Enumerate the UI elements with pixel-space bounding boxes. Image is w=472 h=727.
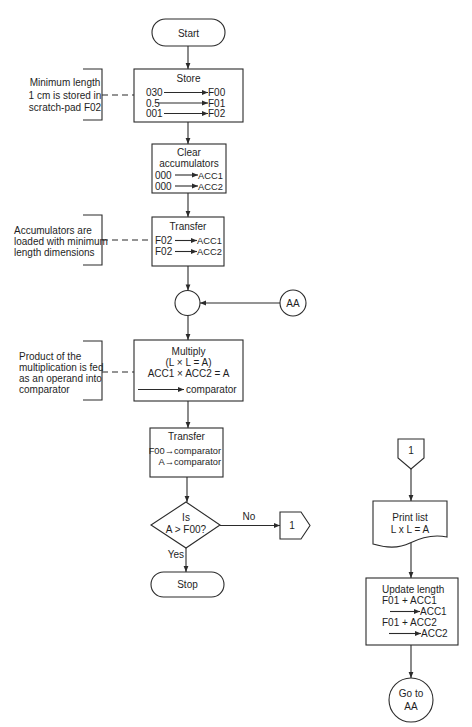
annotation-line: loaded with minimum	[14, 236, 108, 247]
print-list-document: Print list L x L = A	[373, 501, 447, 547]
transfer-load-row-from: F02	[155, 235, 173, 246]
goto-aa-circle	[389, 678, 433, 722]
print-list-line1: Print list	[392, 512, 428, 523]
junction-connector-circle	[175, 291, 200, 316]
decision-diamond: Is A > F00?	[151, 502, 220, 548]
offpage-connector-in-label: 1	[408, 445, 414, 456]
print-list-line2: L x L = A	[391, 524, 430, 535]
offpage-connector-out-shape	[280, 512, 310, 539]
store-row-to: F01	[208, 98, 226, 109]
clear-row-to: ACC1	[198, 171, 223, 181]
annotation-line: 1 cm is stored in	[29, 90, 102, 101]
goto-line1: Go to	[399, 688, 424, 699]
transfer-load-row-from: F02	[155, 246, 173, 257]
start-terminal: Start	[152, 19, 225, 46]
start-label: Start	[178, 28, 199, 39]
clear-title-line2: accumulators	[159, 158, 218, 169]
multiply-output-target: comparator	[186, 384, 237, 395]
transfer-compare-box: Transfer F00→comparator A→comparator	[149, 428, 223, 477]
multiply-operation: ACC1 × ACC2 = A	[148, 368, 230, 379]
goto-line2: AA	[404, 701, 418, 712]
stop-label: Stop	[177, 579, 198, 590]
multiply-process-box: Multiply (L × L = A) ACC1 × ACC2 = A com…	[134, 340, 243, 401]
annotation-line: length dimensions	[14, 247, 95, 258]
decision-line1: Is	[182, 512, 190, 523]
annotation-line: scratch-pad F02	[29, 102, 102, 113]
update-length-target2: ACC2	[421, 628, 448, 639]
transfer-load-row-to: ACC2	[197, 247, 222, 257]
store-title: Store	[177, 73, 201, 84]
clear-row-to: ACC2	[198, 182, 223, 192]
annotation-line: Product of the	[19, 351, 82, 362]
transfer-compare-title: Transfer	[168, 431, 206, 442]
multiply-formula: (L × L = A)	[166, 357, 212, 368]
annotation-line: Minimum length	[30, 77, 101, 88]
aa-connector: AA	[280, 290, 306, 316]
update-length-target1: ACC1	[420, 606, 447, 617]
transfer-load-box: Transfer F02 ACC1 F02 ACC2	[152, 217, 224, 266]
annotation-line: multiplication is fed	[19, 362, 103, 373]
annotation-store: Minimum length 1 cm is stored in scratch…	[29, 69, 134, 120]
clear-row-from: 000	[155, 181, 172, 192]
annotation-transfer: Accumulators are loaded with minimum len…	[14, 215, 152, 265]
transfer-load-title: Transfer	[170, 221, 208, 232]
offpage-connector-in: 1	[398, 439, 424, 469]
flowchart-canvas: Start Store 030 F00 0.5 F01 001 F02 Clea…	[0, 0, 472, 727]
yes-branch-label: Yes	[168, 549, 184, 560]
multiply-title: Multiply	[172, 346, 206, 357]
transfer-compare-line: A→comparator	[158, 457, 221, 467]
store-row-to: F02	[208, 108, 226, 119]
transfer-load-row-to: ACC1	[197, 236, 222, 246]
annotation-multiply: Product of the multiplication is fed as …	[19, 341, 134, 400]
offpage-connector-out: 1	[280, 512, 310, 539]
transfer-compare-line: F00→comparator	[149, 446, 221, 456]
store-process-box: Store 030 F00 0.5 F01 001 F02	[134, 69, 243, 122]
stop-terminal: Stop	[151, 572, 224, 597]
update-length-line2: F01 + ACC2	[382, 617, 437, 628]
annotation-line: Accumulators are	[14, 225, 92, 236]
store-row-from: 030	[146, 87, 163, 98]
annotation-line: as an operand into	[19, 373, 102, 384]
annotation-line: comparator	[19, 384, 70, 395]
decision-line2: A > F00?	[166, 524, 207, 535]
offpage-connector-out-label: 1	[289, 520, 295, 531]
no-branch-label: No	[243, 511, 256, 522]
aa-connector-label: AA	[286, 298, 300, 309]
update-length-box: Update length F01 + ACC1 ACC1 F01 + ACC2…	[366, 578, 458, 645]
store-row-from: 001	[146, 108, 163, 119]
clear-row-from: 000	[155, 170, 172, 181]
goto-aa-connector: Go to AA	[389, 678, 433, 722]
clear-accumulators-box: Clear accumulators 000 ACC1 000 ACC2	[152, 144, 226, 193]
update-length-title: Update length	[382, 584, 444, 595]
clear-title-line1: Clear	[177, 147, 202, 158]
update-length-line1: F01 + ACC1	[382, 595, 437, 606]
store-row-to: F00	[208, 87, 226, 98]
